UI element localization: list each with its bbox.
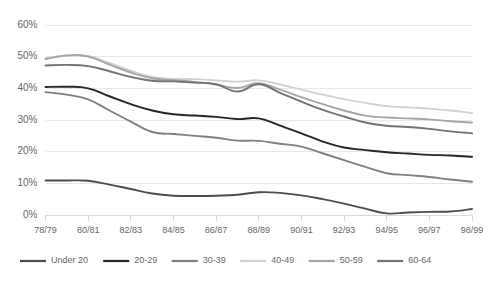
x-tick-label: 84/85 — [162, 225, 185, 235]
y-tick-label: 60% — [17, 19, 37, 30]
x-tick-label: 78/79 — [34, 225, 57, 235]
legend-label-40-49: 40-49 — [271, 255, 294, 265]
y-tick-label: 40% — [17, 82, 37, 93]
gridlines — [46, 25, 473, 215]
series-line-30-39 — [46, 92, 473, 182]
y-tick-label: 10% — [17, 177, 37, 188]
y-tick-label: 50% — [17, 50, 37, 61]
chart-canvas: 0%10%20%30%40%50%60% 78/7980/8182/8384/8… — [0, 0, 496, 283]
series-line-20-29 — [46, 87, 473, 157]
y-tick-label: 30% — [17, 114, 37, 125]
legend-label-under-20: Under 20 — [51, 255, 88, 265]
y-tick-label: 0% — [23, 209, 38, 220]
series-line-60-64 — [46, 65, 473, 133]
line-chart: 0%10%20%30%40%50%60% 78/7980/8182/8384/8… — [0, 0, 496, 283]
x-tick-label: 94/95 — [375, 225, 398, 235]
x-tick-label: 80/81 — [77, 225, 100, 235]
series-line-under-20 — [46, 180, 473, 213]
x-tick-label: 92/93 — [333, 225, 356, 235]
x-tick-label: 98/99 — [461, 225, 484, 235]
legend-label-60-64: 60-64 — [408, 255, 431, 265]
x-tick-label: 88/89 — [247, 225, 270, 235]
legend-label-30-39: 30-39 — [203, 255, 226, 265]
x-tick-label: 90/91 — [290, 225, 313, 235]
x-tick-label: 96/97 — [418, 225, 441, 235]
data-series — [46, 55, 473, 214]
x-axis — [46, 215, 473, 221]
y-tick-label: 20% — [17, 145, 37, 156]
x-axis-tick-labels: 78/7980/8182/8384/8586/8788/8990/9192/93… — [34, 225, 483, 235]
y-axis-tick-labels: 0%10%20%30%40%50%60% — [17, 19, 37, 220]
x-tick-label: 86/87 — [205, 225, 228, 235]
chart-legend: Under 2020-2930-3940-4950-5960-64 — [20, 255, 431, 265]
x-tick-label: 82/83 — [120, 225, 143, 235]
legend-label-50-59: 50-59 — [340, 255, 363, 265]
legend-label-20-29: 20-29 — [134, 255, 157, 265]
